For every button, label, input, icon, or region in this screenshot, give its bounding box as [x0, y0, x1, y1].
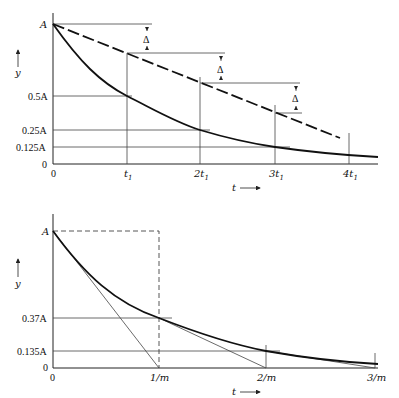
svg-text:A: A	[41, 226, 49, 237]
svg-text:0: 0	[50, 372, 55, 383]
bottom-chart: A 0.37A 0.135A 0 y 0 1/m 2/m 3/m t	[14, 214, 386, 397]
svg-text:2/m: 2/m	[256, 372, 276, 383]
svg-text:0.37A: 0.37A	[22, 313, 48, 324]
svg-text:0.25A: 0.25A	[22, 125, 48, 136]
svg-text:0.125A: 0.125A	[16, 142, 47, 153]
svg-text:0: 0	[42, 159, 47, 170]
tangent-1	[159, 318, 266, 368]
svg-text:A: A	[39, 19, 47, 30]
svg-text:0.135A: 0.135A	[17, 346, 48, 357]
delta-marker-2: Δ	[217, 56, 224, 80]
svg-text:2t1: 2t1	[193, 168, 209, 182]
dashed-series	[53, 24, 340, 138]
svg-text:y: y	[14, 278, 21, 289]
svg-text:y: y	[14, 67, 21, 78]
svg-text:Δ: Δ	[292, 93, 299, 104]
svg-text:Δ: Δ	[143, 34, 150, 45]
top-chart: Δ Δ Δ A 0.5A 0.25A 0.125A 0 y 0	[14, 13, 378, 193]
delta-marker-3: Δ	[292, 86, 299, 110]
svg-text:t1: t1	[124, 168, 133, 182]
svg-text:3/m: 3/m	[367, 372, 386, 383]
svg-text:0: 0	[51, 168, 56, 179]
svg-text:4t1: 4t1	[342, 168, 358, 182]
svg-text:t: t	[232, 182, 237, 193]
svg-text:0: 0	[43, 362, 48, 373]
svg-text:0.5A: 0.5A	[28, 91, 49, 102]
figure: Δ Δ Δ A 0.5A 0.25A 0.125A 0 y 0	[0, 0, 399, 398]
delta-marker-1: Δ	[143, 27, 150, 50]
svg-text:3t1: 3t1	[269, 168, 284, 182]
svg-text:1/m: 1/m	[150, 372, 169, 383]
svg-text:t: t	[232, 386, 237, 397]
svg-text:Δ: Δ	[217, 64, 224, 75]
